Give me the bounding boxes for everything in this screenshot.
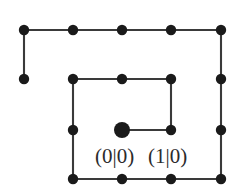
node-r2-c1 (68, 74, 78, 84)
node-top-c3 (166, 25, 176, 35)
node-r2-c2 (117, 74, 127, 84)
node-bot-c1 (68, 174, 78, 184)
node-top-c0 (19, 25, 29, 35)
node-top-c4 (216, 25, 226, 35)
node-r2-c3 (166, 74, 176, 84)
node-left-tail (19, 74, 29, 84)
node-r3-c1 (68, 125, 78, 135)
label-step-coordinate: (1|0) (148, 146, 187, 167)
node-origin (114, 122, 130, 138)
label-origin-coordinate: (0|0) (95, 146, 134, 167)
node-r2-c4 (216, 74, 226, 84)
node-top-c1 (68, 25, 78, 35)
node-bot-c2 (117, 174, 127, 184)
node-top-c2 (117, 25, 127, 35)
node-r3-c4 (216, 125, 226, 135)
node-bot-c3 (166, 174, 176, 184)
node-bot-c4 (216, 174, 226, 184)
lattice-path-figure: (0|0)(1|0) (0, 0, 237, 193)
node-r3-c3 (166, 125, 176, 135)
